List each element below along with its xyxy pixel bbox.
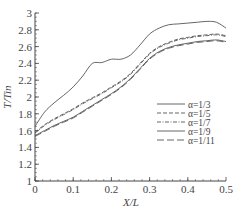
line-chart: 11.21.41.61.822.22.42.62.8300.10.20.30.4… xyxy=(0,0,238,210)
x-tick-label: 0.1 xyxy=(66,183,80,195)
y-tick-label: 1.4 xyxy=(18,141,32,153)
y-tick-label: 1.2 xyxy=(18,158,32,170)
y-tick-label: 2 xyxy=(27,91,33,103)
y-tick-label: 2.8 xyxy=(18,24,32,36)
y-axis-title: T/Tin xyxy=(1,85,13,109)
y-tick-label: 2.6 xyxy=(18,41,32,53)
y-tick-label: 2.4 xyxy=(18,57,32,69)
y-tick-label: 1 xyxy=(27,175,33,187)
y-tick-label: 1.8 xyxy=(18,108,32,120)
legend: α=1/3α=1/5α=1/7α=1/9α=1/11 xyxy=(157,100,215,146)
y-tick-label: 2.2 xyxy=(18,74,32,86)
x-tick-label: 0 xyxy=(32,183,38,195)
x-tick-label: 0.4 xyxy=(181,183,195,195)
y-tick-label: 3 xyxy=(27,7,33,19)
x-tick-label: 0.3 xyxy=(143,183,157,195)
x-tick-label: 0.5 xyxy=(219,183,233,195)
x-axis-title: X/L xyxy=(122,196,139,208)
y-tick-label: 1.6 xyxy=(18,125,32,137)
legend-label: α=1/11 xyxy=(188,136,215,146)
x-tick-label: 0.2 xyxy=(105,183,119,195)
